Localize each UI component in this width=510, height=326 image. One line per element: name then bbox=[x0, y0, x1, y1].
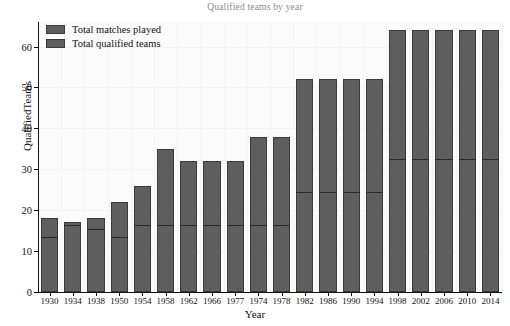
legend-swatch-icon bbox=[46, 25, 65, 34]
x-tick-label-1998: 1998 bbox=[389, 296, 407, 306]
x-tick-mark bbox=[328, 292, 329, 296]
x-tick-label-1994: 1994 bbox=[365, 296, 383, 306]
x-tick-label-1977: 1977 bbox=[226, 296, 244, 306]
x-tick-mark bbox=[119, 292, 120, 296]
x-tick-mark bbox=[166, 292, 167, 296]
chart-page: Qualified teams by year QualifiedTeams 0… bbox=[0, 0, 510, 326]
x-tick-label-1930: 1930 bbox=[41, 296, 59, 306]
x-tick-mark bbox=[142, 292, 143, 296]
x-tick-label-1978: 1978 bbox=[273, 296, 291, 306]
x-tick-mark bbox=[189, 292, 190, 296]
x-axis-label: Year bbox=[0, 308, 510, 320]
x-tick-label-2002: 2002 bbox=[412, 296, 430, 306]
x-tick-mark bbox=[282, 292, 283, 296]
x-tick-mark bbox=[258, 292, 259, 296]
x-tick-mark bbox=[398, 292, 399, 296]
x-tick-mark bbox=[305, 292, 306, 296]
x-tick-mark bbox=[50, 292, 51, 296]
x-tick-mark bbox=[212, 292, 213, 296]
x-tick-label-1990: 1990 bbox=[342, 296, 360, 306]
x-tick-label-2014: 2014 bbox=[481, 296, 499, 306]
x-tick-mark bbox=[235, 292, 236, 296]
x-tick-label-1950: 1950 bbox=[110, 296, 128, 306]
x-tick-mark bbox=[73, 292, 74, 296]
x-tick-mark bbox=[96, 292, 97, 296]
x-tick-label-1962: 1962 bbox=[180, 296, 198, 306]
x-tick-label-1934: 1934 bbox=[64, 296, 82, 306]
x-tick-mark bbox=[421, 292, 422, 296]
x-tick-mark bbox=[467, 292, 468, 296]
legend-label: Total matches played bbox=[72, 24, 161, 35]
chart-legend: Total matches playedTotal qualified team… bbox=[46, 24, 161, 49]
x-tick-label-1982: 1982 bbox=[296, 296, 314, 306]
x-tick-label-1938: 1938 bbox=[87, 296, 105, 306]
x-tick-label-1958: 1958 bbox=[157, 296, 175, 306]
legend-swatch-icon bbox=[46, 39, 65, 48]
legend-label: Total qualified teams bbox=[72, 38, 161, 49]
x-tick-label-2006: 2006 bbox=[435, 296, 453, 306]
legend-item-1[interactable]: Total qualified teams bbox=[46, 38, 161, 49]
x-tick-mark bbox=[351, 292, 352, 296]
x-tick-mark bbox=[374, 292, 375, 296]
x-tick-mark bbox=[490, 292, 491, 296]
x-tick-label-1986: 1986 bbox=[319, 296, 337, 306]
x-tick-label-1954: 1954 bbox=[133, 296, 151, 306]
x-tick-mark bbox=[444, 292, 445, 296]
legend-item-0[interactable]: Total matches played bbox=[46, 24, 161, 35]
x-tick-label-1966: 1966 bbox=[203, 296, 221, 306]
x-tick-label-1974: 1974 bbox=[249, 296, 267, 306]
x-tick-label-2010: 2010 bbox=[458, 296, 476, 306]
